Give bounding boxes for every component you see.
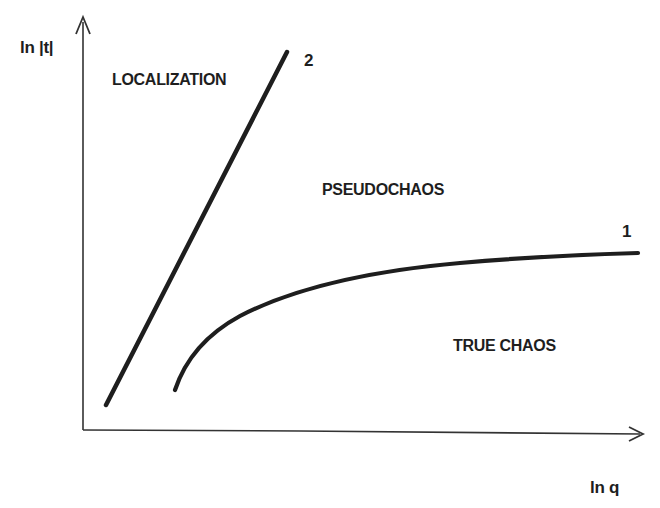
region-label-localization: LOCALIZATION [112,71,226,89]
curve-1-label: 1 [622,222,631,242]
diagram-canvas [0,0,660,508]
region-label-true-chaos: TRUE CHAOS [453,337,556,355]
curve-1-line [175,253,638,390]
phase-diagram: ln |t| ln q LOCALIZATION PSEUDOCHAOS TRU… [0,0,660,508]
curve-2-label: 2 [304,51,313,71]
region-label-pseudochaos: PSEUDOCHAOS [322,181,444,199]
y-axis-label: ln |t| [20,38,53,58]
x-axis-label: ln q [590,478,619,498]
x-axis-line [83,430,640,434]
